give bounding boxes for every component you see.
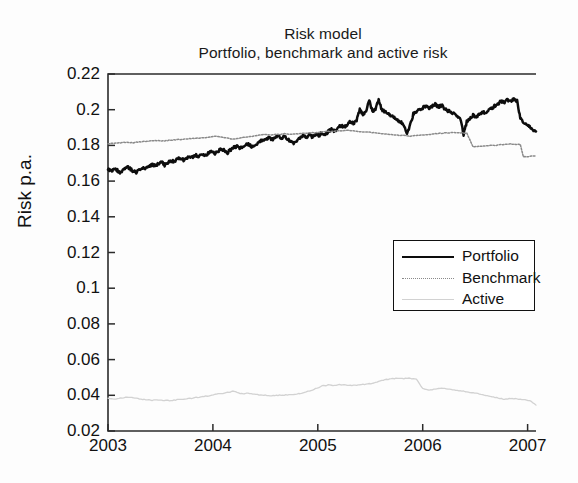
portfolio-line-swatch-icon [402, 250, 454, 262]
legend-label-active: Active [462, 290, 504, 308]
benchmark-line-swatch-icon [402, 272, 454, 284]
series-line-active [108, 378, 536, 405]
legend-item-portfolio: Portfolio [394, 244, 536, 267]
risk-model-chart-figure: Risk model Portfolio, benchmark and acti… [0, 0, 578, 483]
x-axis-tick-label: 2005 [273, 436, 363, 456]
chart-legend: Portfolio Benchmark Active [393, 240, 535, 311]
x-axis-tick-label: 2004 [168, 436, 258, 456]
legend-item-active: Active [394, 287, 536, 310]
legend-label-benchmark: Benchmark [462, 269, 540, 287]
x-axis-tick-label: 2006 [378, 436, 468, 456]
active-line-swatch-icon [402, 293, 454, 305]
legend-item-benchmark: Benchmark [394, 266, 536, 289]
x-axis-tick-label: 2007 [483, 436, 573, 456]
x-axis-tick-label: 2003 [63, 436, 153, 456]
legend-label-portfolio: Portfolio [462, 247, 519, 265]
series-line-portfolio [108, 98, 536, 173]
